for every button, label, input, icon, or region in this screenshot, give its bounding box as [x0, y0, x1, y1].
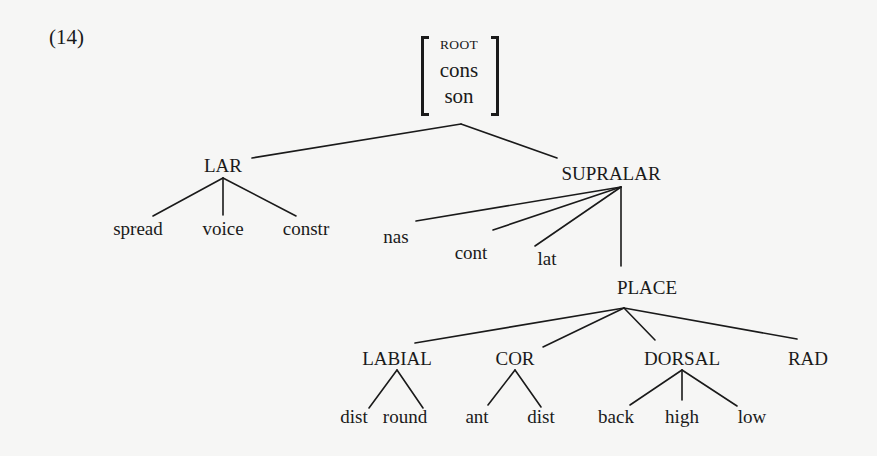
root-feature-root: ROOT [440, 38, 478, 52]
node-low: low [738, 407, 767, 426]
node-lar: LAR [204, 156, 242, 175]
node-dist-cor: dist [527, 407, 554, 426]
edge-cor-ant [488, 370, 515, 405]
node-dist-labial: dist [340, 407, 367, 426]
edge-place-cor [543, 308, 624, 347]
example-number: (14) [49, 27, 84, 48]
edge-dorsal-back [630, 370, 682, 405]
node-constr: constr [283, 219, 329, 238]
node-spread: spread [113, 219, 163, 238]
node-high: high [665, 407, 699, 426]
edge-supralar-cont [493, 187, 621, 230]
left-bracket [421, 36, 429, 116]
edge-root-lar [252, 124, 461, 158]
node-voice: voice [202, 219, 243, 238]
edge-lar-constr [223, 178, 296, 216]
edge-cor-dist2 [515, 370, 541, 407]
edge-labial-round [397, 370, 423, 408]
root-feature-cons: cons [440, 60, 479, 81]
node-lat: lat [538, 249, 557, 268]
edge-labial-dist1 [369, 370, 397, 408]
node-labial: LABIAL [362, 349, 432, 368]
edge-supralar-nas [416, 187, 621, 221]
edge-root-supralar [461, 124, 557, 158]
node-round: round [383, 407, 427, 426]
right-bracket [491, 36, 499, 116]
node-supralar: SUPRALAR [561, 164, 660, 183]
edge-place-labial [415, 308, 624, 343]
edge-supralar-lat [535, 187, 621, 246]
edge-lar-spread [153, 178, 223, 216]
node-rad: RAD [788, 349, 828, 368]
node-cont: cont [455, 243, 488, 262]
node-dorsal: DORSAL [644, 349, 720, 368]
node-ant: ant [465, 407, 488, 426]
root-feature-son: son [444, 86, 473, 107]
node-cor: COR [495, 349, 534, 368]
node-back: back [598, 407, 634, 426]
node-nas: nas [383, 227, 408, 246]
node-place: PLACE [617, 278, 677, 297]
edge-dorsal-low [682, 370, 737, 406]
feature-geometry-diagram: (14) ROOT cons son LAR SUPRALAR spread v… [0, 0, 877, 456]
